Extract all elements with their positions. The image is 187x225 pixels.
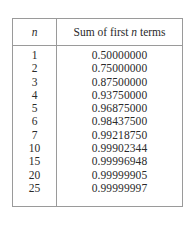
cell-n: 15: [13, 155, 56, 168]
table-row: 150.99996948: [13, 155, 182, 168]
table-row: 20.75000000: [13, 62, 182, 75]
table-row: 100.99902344: [13, 142, 182, 155]
cell-n: 6: [13, 115, 56, 128]
table-row: 40.93750000: [13, 89, 182, 102]
cell-sum: 0.98437500: [57, 115, 182, 128]
table-row: 50.96875000: [13, 102, 182, 115]
cell-sum: 0.99996948: [57, 155, 182, 168]
table-row: 70.99218750: [13, 129, 182, 142]
cell-sum: 0.87500000: [57, 76, 182, 89]
cell-sum: 0.99999905: [57, 169, 182, 182]
table-row: 10.50000000: [13, 49, 182, 62]
cell-sum: 0.93750000: [57, 89, 182, 102]
cell-n: 5: [13, 102, 56, 115]
table-row: 30.87500000: [13, 76, 182, 89]
table-row: 60.98437500: [13, 115, 182, 128]
header-sum-suffix: terms: [137, 26, 165, 38]
cell-n: 7: [13, 129, 56, 142]
cell-sum: 0.96875000: [57, 102, 182, 115]
cell-n: 4: [13, 89, 56, 102]
cell-sum: 0.99902344: [57, 142, 182, 155]
cell-n: 3: [13, 76, 56, 89]
table-row: 200.99999905: [13, 169, 182, 182]
cell-n: 2: [13, 62, 56, 75]
cell-n: 1: [13, 49, 56, 62]
header-sum-prefix: Sum of first: [73, 26, 131, 38]
cell-n: 25: [13, 182, 56, 195]
cell-sum: 0.50000000: [57, 49, 182, 62]
header-n: n: [13, 19, 56, 45]
cell-n: 20: [13, 169, 56, 182]
cell-sum: 0.75000000: [57, 62, 182, 75]
header-sum: Sum of first n terms: [57, 19, 182, 45]
table-row: 250.99999997: [13, 182, 182, 195]
cell-sum: 0.99999997: [57, 182, 182, 195]
cell-n: 10: [13, 142, 56, 155]
header-divider: [13, 45, 182, 46]
partial-sums-table: n Sum of first n terms 10.50000000 20.75…: [12, 18, 183, 207]
table-body: 10.50000000 20.75000000 30.87500000 40.9…: [13, 49, 182, 195]
cell-sum: 0.99218750: [57, 129, 182, 142]
